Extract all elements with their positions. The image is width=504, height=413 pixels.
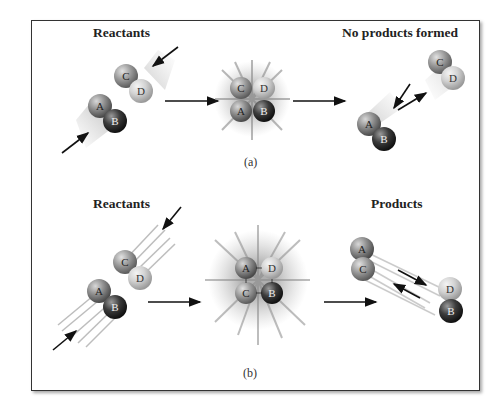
- panel-a-caption: (a): [244, 155, 257, 170]
- svg-text:B: B: [260, 105, 267, 117]
- collision-burst: A D C B: [205, 225, 310, 345]
- svg-text:B: B: [268, 287, 275, 299]
- molecule-ab: A B: [87, 279, 127, 319]
- atom-a-label: A: [96, 100, 104, 112]
- motion-trail: [362, 250, 445, 315]
- collision-diagram: C D A B C D A B: [0, 0, 504, 413]
- molecule-cd: C D: [113, 250, 152, 290]
- motion-trail: [58, 225, 175, 347]
- svg-text:A: A: [237, 105, 245, 117]
- svg-text:D: D: [260, 82, 268, 94]
- atom-d-label: D: [137, 85, 145, 97]
- panel-a-result-label: No products formed: [342, 25, 458, 41]
- svg-text:A: A: [242, 262, 250, 274]
- panel-b-result-label: Products: [371, 196, 423, 212]
- panel-b-caption: (b): [243, 366, 257, 381]
- svg-text:D: D: [446, 283, 454, 295]
- svg-text:C: C: [242, 287, 249, 299]
- arrow-icon: [163, 207, 181, 229]
- molecule-ab-rebound: A B: [357, 112, 396, 151]
- arrow-icon: [53, 331, 76, 350]
- svg-text:B: B: [380, 133, 387, 145]
- svg-text:C: C: [436, 56, 443, 68]
- svg-text:D: D: [268, 262, 276, 274]
- panel-a-reactants-label: Reactants: [93, 25, 150, 41]
- arrow-icon: [62, 133, 88, 153]
- svg-text:C: C: [237, 82, 244, 94]
- atom-c-label: C: [122, 70, 129, 82]
- svg-text:D: D: [449, 72, 457, 84]
- collision-burst: C D A B: [214, 60, 290, 140]
- molecule-ac: A C: [350, 237, 375, 281]
- svg-text:C: C: [359, 263, 366, 275]
- svg-text:A: A: [95, 285, 103, 297]
- svg-text:A: A: [365, 118, 373, 130]
- panel-b: C D A B A D C B: [53, 207, 463, 350]
- molecule-db: D B: [438, 277, 463, 323]
- svg-text:A: A: [358, 243, 366, 255]
- svg-text:B: B: [447, 305, 454, 317]
- panel-a: C D A B C D A B: [62, 47, 465, 153]
- svg-text:C: C: [121, 256, 128, 268]
- svg-text:B: B: [111, 301, 118, 313]
- svg-text:D: D: [136, 272, 144, 284]
- atom-b-label: B: [111, 115, 118, 127]
- panel-b-reactants-label: Reactants: [93, 196, 150, 212]
